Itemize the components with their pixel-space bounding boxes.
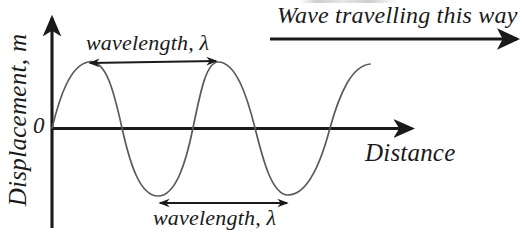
origin-label: 0 — [33, 114, 45, 137]
wavelength-bottom-label: wavelength, λ — [153, 207, 276, 229]
wavelength-top-measure — [90, 61, 216, 63]
wavelength-top-label: wavelength, λ — [86, 32, 209, 54]
wave-diagram-figure: Displacement, m 0 Distance Wave travelli… — [0, 0, 524, 241]
x-axis-label: Distance — [365, 140, 455, 165]
y-axis-label-text: Displacement, m — [5, 34, 30, 207]
y-axis-label: Displacement, m — [0, 14, 34, 226]
wave-direction-label: Wave travelling this way — [277, 3, 518, 27]
wavelength-top-arrow — [90, 61, 216, 63]
